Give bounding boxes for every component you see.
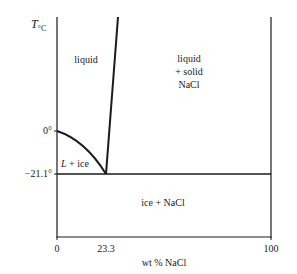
- x-tick-label-100: 100: [264, 243, 279, 254]
- region-liquid: liquid: [74, 54, 97, 65]
- region-liquid-solid-line2: + solid: [175, 66, 203, 77]
- region-liquid-solid-line1: liquid: [177, 53, 200, 64]
- y-tick-label-0: 0°: [43, 125, 52, 136]
- y-tick-label-eutectic: −21.1°: [25, 168, 52, 179]
- x-tick-label-23-3: 23.3: [97, 243, 115, 254]
- x-axis-label: wt % NaCl: [142, 257, 187, 268]
- region-liquid-solid-line3: NaCl: [178, 79, 199, 90]
- region-ice-nacl: ice + NaCl: [141, 197, 185, 208]
- x-tick-label-0: 0: [55, 243, 60, 254]
- y-axis-label: T°C: [31, 17, 46, 33]
- region-l-ice: L + ice: [60, 158, 89, 169]
- phase-diagram: T°C 0° −21.1° 0 23.3 100 wt % NaCl liqui…: [0, 0, 297, 274]
- nacl-liquidus-line: [106, 17, 118, 174]
